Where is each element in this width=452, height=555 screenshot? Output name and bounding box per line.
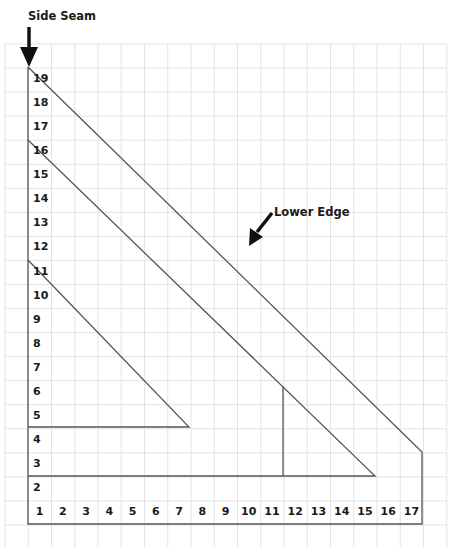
column-label: 8: [198, 505, 206, 518]
row-label: 19: [33, 72, 48, 85]
column-label: 13: [311, 505, 326, 518]
lower-edge-label: Lower Edge: [274, 205, 350, 219]
row-label: 4: [33, 433, 41, 446]
row-label: 5: [33, 409, 41, 422]
row-label: 15: [33, 168, 48, 181]
row-label: 2: [33, 481, 41, 494]
row-label: 14: [33, 192, 49, 205]
column-label: 1: [36, 505, 44, 518]
column-label: 16: [381, 505, 397, 518]
row-label: 6: [33, 385, 41, 398]
diagram-canvas: 2345678910111213141516171819 12345678910…: [0, 0, 452, 555]
side-seam-arrow-icon: [20, 27, 38, 67]
background-grid: [5, 44, 447, 547]
pattern-diagram: 2345678910111213141516171819 12345678910…: [0, 0, 452, 555]
column-label: 2: [59, 505, 67, 518]
column-label: 17: [404, 505, 419, 518]
column-label: 7: [175, 505, 183, 518]
row-label: 13: [33, 216, 48, 229]
middle-triangle: [28, 140, 375, 476]
row-label: 3: [33, 457, 41, 470]
column-label: 6: [152, 505, 160, 518]
row-label: 18: [33, 96, 48, 109]
column-label: 5: [129, 505, 137, 518]
inner-triangle: [28, 260, 189, 427]
row-labels: 2345678910111213141516171819: [33, 72, 49, 494]
row-label: 16: [33, 144, 49, 157]
pattern-outline: [28, 67, 422, 524]
column-label: 15: [357, 505, 372, 518]
side-seam-label: Side Seam: [28, 9, 96, 23]
outer-outline: [28, 67, 422, 524]
column-labels: 1234567891011121314151617: [36, 505, 419, 518]
column-label: 3: [82, 505, 90, 518]
column-label: 11: [264, 505, 279, 518]
row-label: 8: [33, 337, 41, 350]
row-label: 10: [33, 289, 49, 302]
row-label: 12: [33, 240, 48, 253]
column-label: 12: [288, 505, 303, 518]
column-label: 14: [334, 505, 350, 518]
row-label: 11: [33, 265, 48, 278]
column-label: 4: [105, 505, 113, 518]
column-label: 9: [222, 505, 230, 518]
row-label: 9: [33, 313, 41, 326]
row-label: 7: [33, 361, 41, 374]
column-label: 10: [241, 505, 257, 518]
row-label: 17: [33, 120, 48, 133]
